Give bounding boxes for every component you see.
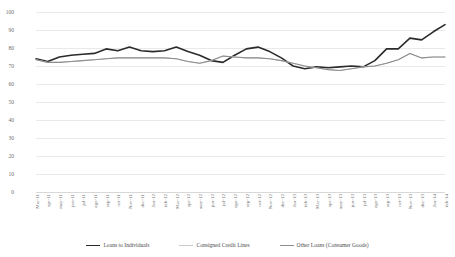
x-tick-label: Jan-14 xyxy=(432,194,438,207)
legend-swatch-line-icon xyxy=(280,245,294,246)
x-tick-label: oct-12 xyxy=(257,194,263,207)
x-tick-label: Jan-12 xyxy=(151,194,157,207)
x-tick-label: apr-11 xyxy=(46,194,52,207)
x-tick-label: Jan-13 xyxy=(292,194,298,207)
x-tick-label: dec-13 xyxy=(420,194,426,208)
series-line-2 xyxy=(36,53,445,70)
legend-swatch-line-icon xyxy=(179,245,193,246)
y-tick-label-100: 100 xyxy=(0,9,14,15)
y-tick-label-60: 60 xyxy=(0,81,14,87)
y-tick-label-50: 50 xyxy=(0,99,14,105)
x-tick-label: Mar-12 xyxy=(175,194,181,209)
x-tick-label: Nov-11 xyxy=(128,194,134,209)
x-tick-label: jul-11 xyxy=(81,194,87,206)
y-tick-label-70: 70 xyxy=(0,63,14,69)
legend-item[interactable]: Other Loans (Consumer Goods) xyxy=(280,242,369,249)
x-tick-label: may-13 xyxy=(338,194,344,209)
series-line-0 xyxy=(36,25,445,69)
x-tick-label: dec-11 xyxy=(140,194,146,207)
series-lines xyxy=(36,12,445,192)
x-tick-label: ago-11 xyxy=(93,194,99,208)
x-tick-label: sep-11 xyxy=(105,194,111,207)
x-tick-label: jun-11 xyxy=(70,194,76,207)
x-tick-label: Mar-13 xyxy=(315,194,321,209)
y-tick-label-10: 10 xyxy=(0,171,14,177)
legend-item[interactable]: Consigned Credit Lines xyxy=(179,242,249,249)
x-tick-label: jul-12 xyxy=(221,194,227,206)
x-tick-label: apr-13 xyxy=(327,194,333,207)
y-tick-label-40: 40 xyxy=(0,117,14,123)
x-tick-label: ago-13 xyxy=(373,194,379,208)
x-tick-label: feb-13 xyxy=(303,194,309,207)
y-tick-label-30: 30 xyxy=(0,135,14,141)
x-tick-label: sep-13 xyxy=(385,194,391,207)
x-tick-label: Nov-12 xyxy=(268,194,274,209)
chart-container: 0102030405060708090100 Mar-11apr-11may-1… xyxy=(0,0,455,257)
x-tick-label: may-12 xyxy=(198,194,204,209)
x-tick-label: apr-12 xyxy=(186,194,192,207)
legend-item[interactable]: Loans to Individuals xyxy=(86,242,149,249)
x-tick-label: Mar-11 xyxy=(35,194,41,209)
y-tick-label-80: 80 xyxy=(0,45,14,51)
x-tick-label: oct-11 xyxy=(116,194,122,207)
x-tick-label: Nov-13 xyxy=(408,194,414,209)
x-tick-label: feb-14 xyxy=(444,194,450,207)
x-tick-label: jul-13 xyxy=(362,194,368,206)
x-tick-label: jun-12 xyxy=(210,194,216,207)
y-tick-label-0: 0 xyxy=(0,189,14,195)
x-tick-label: feb-12 xyxy=(163,194,169,207)
legend-label: Loans to Individuals xyxy=(103,242,149,249)
x-tick-label: jun-13 xyxy=(350,194,356,207)
legend-label: Consigned Credit Lines xyxy=(196,242,249,249)
series-line-1 xyxy=(36,53,445,70)
legend-label: Other Loans (Consumer Goods) xyxy=(297,242,369,249)
y-tick-label-90: 90 xyxy=(0,27,14,33)
chart-legend: Loans to IndividualsConsigned Credit Lin… xyxy=(0,238,455,252)
x-tick-label: may-11 xyxy=(58,194,64,209)
x-axis-tick-labels: Mar-11apr-11may-11jun-11jul-11ago-11sep-… xyxy=(36,194,445,234)
x-tick-label: sep-12 xyxy=(245,194,251,207)
legend-swatch-line-icon xyxy=(86,245,100,246)
x-tick-label: ago-12 xyxy=(233,194,239,208)
x-tick-label: oct-13 xyxy=(397,194,403,207)
x-tick-label: dec-12 xyxy=(280,194,286,208)
plot-area xyxy=(36,12,445,192)
y-tick-label-20: 20 xyxy=(0,153,14,159)
